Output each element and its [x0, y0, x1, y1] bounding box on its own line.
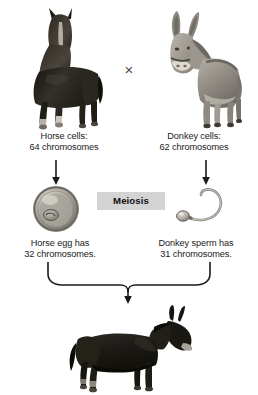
donkey-sperm-caption: Donkey sperm has 31 chromosomes. [134, 238, 258, 261]
horse-egg-caption: Horse egg has 32 chromosomes. [0, 238, 120, 261]
meiosis-arrow-horse [46, 160, 66, 186]
donkey-illustration [158, 8, 248, 130]
horse-illustration [22, 6, 108, 130]
cross-symbol: × [121, 62, 137, 77]
horse-egg-illustration [31, 184, 81, 234]
meiosis-label-box: Meiosis [97, 192, 165, 210]
meiosis-arrow-donkey [196, 160, 216, 186]
horse-egg-chromosome-count: 32 chromosomes. [0, 249, 120, 260]
donkey-sperm-label: Donkey sperm has [134, 238, 258, 249]
donkey-sperm-illustration [176, 184, 232, 236]
horse-chromosome-count: 64 chromosomes [0, 142, 128, 153]
horse-donkey-mule-diagram: × [0, 0, 258, 395]
fertilization-merge-arrow [40, 262, 218, 306]
donkey-sperm-chromosome-count: 31 chromosomes. [134, 249, 258, 260]
donkey-chromosome-count: 62 chromosomes [130, 142, 258, 153]
donkey-cells-caption: Donkey cells: 62 chromosomes [130, 131, 258, 154]
mule-illustration [62, 305, 202, 393]
horse-cells-label: Horse cells: [0, 131, 128, 142]
horse-cells-caption: Horse cells: 64 chromosomes [0, 131, 128, 154]
donkey-cells-label: Donkey cells: [130, 131, 258, 142]
horse-egg-label: Horse egg has [0, 238, 120, 249]
